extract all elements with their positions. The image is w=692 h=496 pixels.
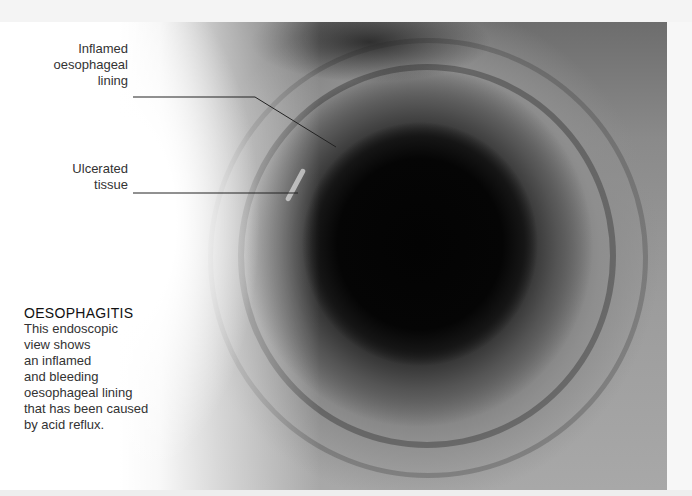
caption-title: OESOPHAGITIS [24, 305, 204, 321]
caption-line: by acid reflux. [24, 417, 204, 433]
bottom-margin [0, 490, 692, 496]
caption-line: This endoscopic [24, 321, 204, 337]
label-line: lining [40, 73, 128, 89]
label-line: oesophageal [40, 57, 128, 73]
label-ulcerated-tissue: Ulcerated tissue [40, 161, 128, 193]
caption-line: view shows [24, 337, 204, 353]
label-line: Inflamed [40, 41, 128, 57]
top-margin [0, 0, 692, 22]
caption-line: that has been caused [24, 401, 204, 417]
right-margin [667, 22, 692, 490]
caption-line: and bleeding [24, 369, 204, 385]
label-line: tissue [40, 177, 128, 193]
figure-caption: OESOPHAGITIS This endoscopic view shows … [24, 305, 204, 433]
caption-line: oesophageal lining [24, 385, 204, 401]
caption-line: an inflamed [24, 353, 204, 369]
label-line: Ulcerated [40, 161, 128, 177]
label-inflamed-lining: Inflamed oesophageal lining [40, 41, 128, 89]
